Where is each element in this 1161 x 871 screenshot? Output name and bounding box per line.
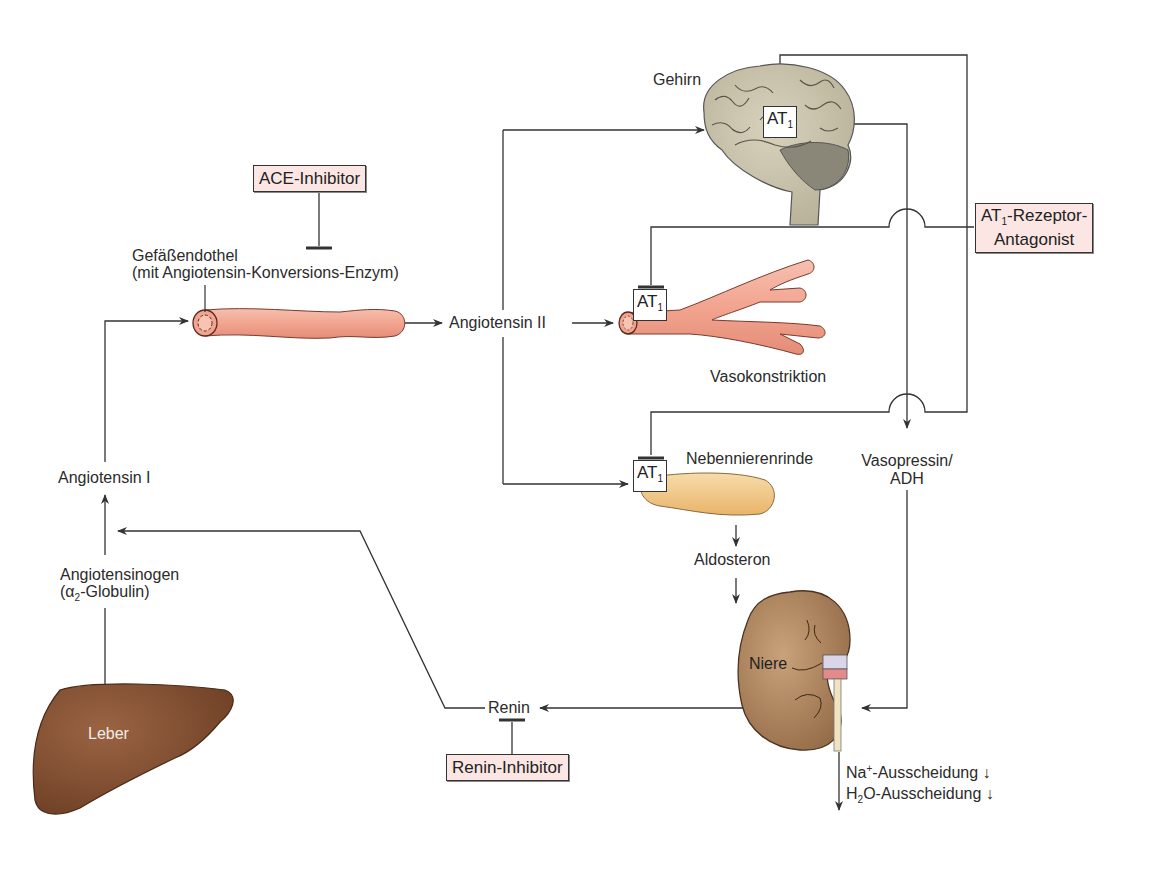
water-excretion-label: H2O-Ausscheidung ↓	[846, 785, 994, 809]
at1-text: AT	[637, 292, 657, 311]
alpha2-globulin-label: (α2-Globulin)	[60, 583, 150, 607]
at1-receptor-adrenal: AT1	[633, 460, 667, 492]
raas-diagram-canvas	[0, 0, 1161, 871]
water-prefix: H	[846, 785, 858, 802]
alpha-suffix: -Globulin)	[80, 583, 149, 600]
vasopressin-label: Vasopressin/ ADH	[852, 452, 962, 488]
at1-receptor-vessel: AT1	[633, 289, 667, 321]
sodium-prefix: Na	[846, 764, 866, 781]
water-suffix: O-Ausscheidung ↓	[863, 785, 994, 802]
at1-subscript: 1	[787, 119, 793, 130]
liver-label: Leber	[88, 725, 129, 743]
adrenal-cortex-label: Nebennierenrinde	[686, 450, 813, 468]
brain-label: Gehirn	[653, 71, 701, 89]
at1-antagonist-box: AT1-Rezeptor- Antagonist	[975, 203, 1093, 253]
liver-illustration	[33, 684, 233, 814]
angiotensinogen-label: Angiotensinogen	[60, 566, 179, 584]
at1-antagonist-line1: AT1-Rezeptor-	[981, 207, 1087, 231]
sodium-excretion-label: Na+-Ausscheidung ↓	[846, 760, 991, 782]
at1-receptor-brain: AT1	[763, 106, 797, 138]
sodium-suffix: -Ausscheidung ↓	[872, 764, 990, 781]
angiotensin-ii-label: Angiotensin II	[449, 314, 546, 332]
vessel-endothelium-illustration	[193, 285, 405, 338]
brain-illustration	[704, 64, 855, 225]
at1-subscript: 1	[657, 473, 663, 484]
ace-enzyme-label: (mit Angiotensin-Konversions-Enzym)	[132, 264, 399, 282]
at1-antagonist-line2: Antagonist	[981, 231, 1087, 249]
vasopressin-line2: ADH	[852, 470, 962, 488]
renin-label: Renin	[488, 699, 530, 717]
ace-inhibitor-box: ACE-Inhibitor	[253, 165, 366, 192]
vasoconstriction-label: Vasokonstriktion	[710, 368, 826, 386]
alpha-prefix: (α	[60, 583, 75, 600]
at1-antagonist-suffix: -Rezeptor-	[1007, 206, 1087, 225]
at1-subscript: 1	[657, 302, 663, 313]
at1-text: AT	[767, 109, 787, 128]
kidney-label: Niere	[749, 655, 787, 673]
at1-text: AT	[637, 463, 657, 482]
vessel-endothelium-label: Gefäßendothel	[132, 247, 238, 265]
vasopressin-line1: Vasopressin/	[852, 452, 962, 470]
at1-antagonist-prefix: AT	[981, 206, 1001, 225]
angiotensin-i-label: Angiotensin I	[58, 469, 151, 487]
renin-inhibitor-box: Renin-Inhibitor	[446, 754, 569, 781]
aldosterone-label: Aldosteron	[694, 551, 771, 569]
